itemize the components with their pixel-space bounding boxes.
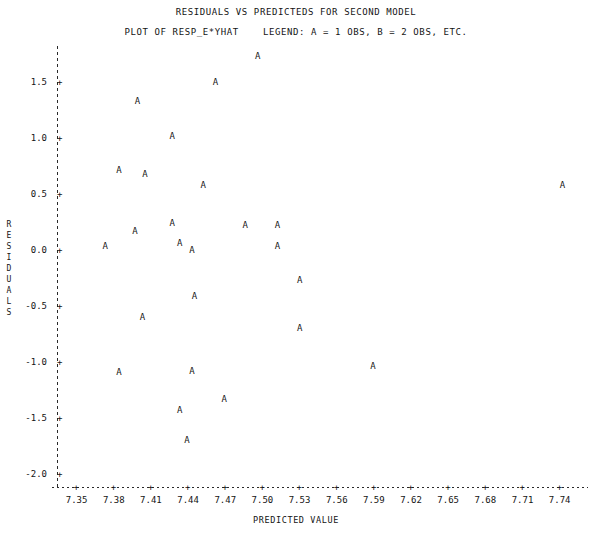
- data-point-marker: A: [116, 166, 121, 175]
- y-tick-mark: +: [57, 133, 62, 143]
- x-tick-mark: +: [408, 482, 413, 492]
- x-tick-mark: +: [482, 482, 487, 492]
- data-point-marker: A: [370, 362, 375, 371]
- data-point-marker: A: [103, 242, 108, 251]
- y-tick-mark: +: [57, 413, 62, 423]
- x-tick-mark: +: [185, 482, 190, 492]
- y-axis-title-char: A: [3, 285, 15, 296]
- x-tick-label: 7.68: [471, 495, 499, 505]
- x-tick-mark: +: [334, 482, 339, 492]
- y-axis-title-char: U: [3, 274, 15, 285]
- data-point-marker: A: [200, 180, 205, 189]
- x-tick-label: 7.41: [137, 495, 165, 505]
- data-point-marker: A: [297, 324, 302, 333]
- y-tick-mark: +: [57, 189, 62, 199]
- y-tick-label: -1.0: [25, 357, 47, 367]
- data-point-marker: A: [192, 291, 197, 300]
- x-axis-line: [52, 487, 588, 488]
- y-tick-label: 1.0: [31, 133, 47, 143]
- y-axis-title-char: L: [3, 296, 15, 307]
- x-tick-label: 7.59: [360, 495, 388, 505]
- data-point-marker: A: [140, 312, 145, 321]
- x-axis-title: PREDICTED VALUE: [0, 515, 592, 525]
- x-tick-mark: +: [111, 482, 116, 492]
- y-tick-label: 1.5: [31, 77, 47, 87]
- x-tick-label: 7.71: [509, 495, 537, 505]
- data-point-marker: A: [184, 435, 189, 444]
- x-tick-mark: +: [148, 482, 153, 492]
- x-tick-label: 7.35: [63, 495, 91, 505]
- x-tick-mark: +: [259, 482, 264, 492]
- y-tick-mark: +: [57, 469, 62, 479]
- y-tick-mark: +: [57, 301, 62, 311]
- y-axis-title-char: R: [3, 219, 15, 230]
- x-tick-mark: +: [297, 482, 302, 492]
- data-point-marker: A: [135, 96, 140, 105]
- data-point-marker: A: [275, 221, 280, 230]
- x-tick-mark: +: [520, 482, 525, 492]
- x-tick-label: 7.38: [100, 495, 128, 505]
- data-point-marker: A: [213, 77, 218, 86]
- data-point-marker: A: [560, 180, 565, 189]
- data-point-marker: A: [297, 275, 302, 284]
- data-point-marker: A: [255, 52, 260, 61]
- x-tick-label: 7.50: [248, 495, 276, 505]
- x-tick-mark: +: [371, 482, 376, 492]
- data-point-marker: A: [243, 221, 248, 230]
- y-tick-label: -0.5: [25, 301, 47, 311]
- y-axis-title-char: E: [3, 230, 15, 241]
- y-tick-mark: +: [57, 357, 62, 367]
- y-tick-label: -2.0: [25, 469, 47, 479]
- data-point-marker: A: [169, 131, 174, 140]
- x-tick-label: 7.74: [546, 495, 574, 505]
- x-tick-mark: +: [222, 482, 227, 492]
- x-tick-label: 7.47: [211, 495, 239, 505]
- x-tick-label: 7.56: [323, 495, 351, 505]
- y-axis-title: RESIDUALS: [3, 219, 15, 318]
- y-tick-mark: +: [57, 77, 62, 87]
- x-tick-mark: +: [557, 482, 562, 492]
- plot-page: RESIDUALS VS PREDICTEDS FOR SECOND MODEL…: [0, 0, 592, 540]
- y-axis-title-char: D: [3, 263, 15, 274]
- data-point-marker: A: [169, 218, 174, 227]
- x-tick-label: 7.65: [434, 495, 462, 505]
- x-tick-label: 7.44: [174, 495, 202, 505]
- x-tick-mark: +: [445, 482, 450, 492]
- y-axis-title-char: I: [3, 252, 15, 263]
- data-point-marker: A: [189, 366, 194, 375]
- data-point-marker: A: [275, 242, 280, 251]
- y-tick-label: 0.0: [31, 245, 47, 255]
- data-point-marker: A: [222, 394, 227, 403]
- y-axis-title-char: S: [3, 241, 15, 252]
- x-tick-label: 7.62: [397, 495, 425, 505]
- x-tick-label: 7.53: [286, 495, 314, 505]
- x-tick-mark: +: [74, 482, 79, 492]
- data-point-marker: A: [132, 226, 137, 235]
- y-axis-title-char: S: [3, 307, 15, 318]
- y-tick-label: 0.5: [31, 189, 47, 199]
- y-tick-label: -1.5: [25, 413, 47, 423]
- y-tick-mark: +: [57, 245, 62, 255]
- data-point-marker: A: [142, 169, 147, 178]
- data-point-marker: A: [116, 367, 121, 376]
- data-point-marker: A: [177, 238, 182, 247]
- data-point-marker: A: [189, 245, 194, 254]
- data-point-marker: A: [177, 405, 182, 414]
- scatter-plot: RESIDUALS 1.5+1.0+0.5+0.0+-0.5+-1.0+-1.5…: [0, 0, 592, 540]
